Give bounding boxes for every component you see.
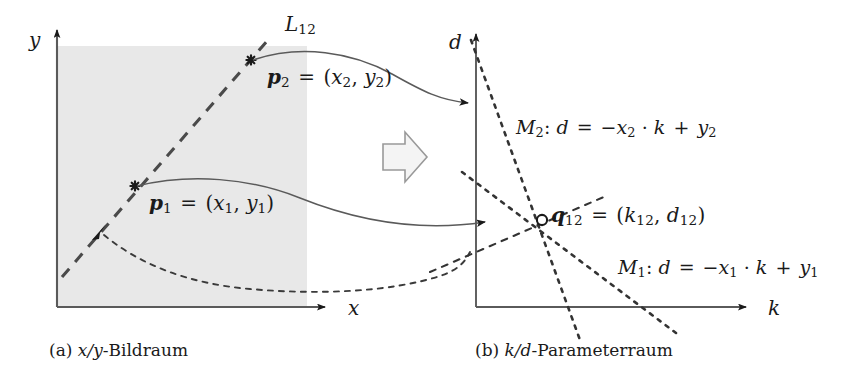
line-equation-m1: M1: d = −x1 · k + y1	[618, 258, 819, 280]
caption-b-text: -Parameterraum	[531, 340, 672, 360]
line-equation-m2: M2: d = −x2 · k + y2	[516, 118, 717, 140]
figure-graphics	[0, 0, 859, 385]
p2-equals: =	[298, 65, 315, 89]
l12-base: L	[285, 12, 298, 36]
caption-panel-a: (a) x/y-Bildraum	[49, 340, 188, 360]
point-marker-q12	[537, 215, 547, 225]
m2-name: M	[516, 116, 535, 138]
q12-coord-k-sub: 12	[636, 212, 654, 228]
m2-var-k: k	[654, 116, 666, 138]
m1-var-k: k	[756, 256, 768, 278]
axis-k-label: k	[768, 296, 780, 320]
m2-minus: −	[601, 116, 617, 138]
point-label-q12: q12 = (k12, d12)	[551, 205, 705, 228]
caption-panel-b: (b) k/d-Parameterraum	[475, 340, 673, 360]
point-label-p1: p1 = (x1, y1)	[149, 193, 274, 216]
q12-paren-open: (	[616, 203, 624, 227]
q12-coord-d-sub: 12	[680, 212, 698, 228]
m2-var-x: x	[617, 116, 628, 138]
p2-name-sub: 2	[281, 74, 290, 90]
m1-var-y-sub: 1	[810, 265, 818, 280]
p1-name: p	[149, 191, 163, 215]
caption-b-prefix: (b)	[475, 340, 499, 360]
caption-a-math: x/y	[78, 340, 103, 360]
q12-name: q	[551, 203, 565, 227]
m2-equals: =	[577, 116, 593, 138]
p2-name: p	[267, 65, 281, 89]
p1-paren-close: )	[266, 191, 274, 215]
axis-d-label: d	[449, 30, 462, 54]
m2-var-y: y	[697, 116, 708, 138]
p2-paren-close: )	[384, 65, 392, 89]
caption-a-text: -Bildraum	[103, 340, 188, 360]
m2-var-x-sub: 2	[627, 125, 635, 140]
m2-name-sub: 2	[535, 125, 543, 140]
axis-x-label: x	[348, 296, 359, 320]
m2-lhs: d	[556, 116, 568, 138]
caption-b-math: k/d	[505, 340, 532, 360]
m1-name: M	[618, 256, 637, 278]
p1-name-sub: 1	[163, 200, 172, 216]
p1-coord-y: y	[246, 191, 257, 215]
m1-minus: −	[703, 256, 719, 278]
panel-b-graphics	[430, 34, 746, 340]
p2-coord-x: x	[331, 65, 342, 89]
q12-paren-close: )	[697, 203, 705, 227]
caption-a-prefix: (a)	[49, 340, 72, 360]
block-arrow-right	[383, 132, 427, 182]
figure-container: y x L12 p2 = (x2, y2) p1 = (x1, y1) d k …	[0, 0, 859, 385]
m1-equals: =	[679, 256, 695, 278]
m1-name-sub: 1	[637, 265, 645, 280]
q12-name-sub: 12	[565, 212, 583, 228]
q12-coord-k: k	[624, 203, 636, 227]
m1-lhs: d	[658, 256, 670, 278]
m1-var-y: y	[799, 256, 810, 278]
l12-sub: 12	[298, 21, 316, 37]
q12-coord-d: d	[667, 203, 680, 227]
p1-equals: =	[180, 191, 197, 215]
m2-plus: +	[673, 116, 689, 138]
m2-var-y-sub: 2	[708, 125, 716, 140]
axis-y-label: y	[29, 28, 40, 52]
m1-plus: +	[775, 256, 791, 278]
line-label-l12: L12	[285, 14, 316, 37]
p1-coord-x: x	[213, 191, 224, 215]
m1-var-x: x	[719, 256, 730, 278]
m1-var-x-sub: 1	[729, 265, 737, 280]
p2-coord-y: y	[364, 65, 375, 89]
q12-equals: =	[591, 203, 608, 227]
point-label-p2: p2 = (x2, y2)	[267, 67, 392, 90]
